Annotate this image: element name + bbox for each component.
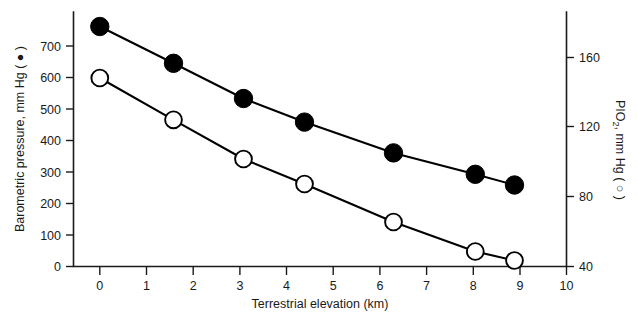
right-axis-tick-labels: 40 80 120 160 [579, 51, 600, 274]
x-tick-label-2: 2 [190, 279, 197, 293]
data-point-open [385, 214, 402, 231]
chart-container: 0 100 200 300 400 500 600 700 40 80 120 … [0, 0, 637, 315]
x-tick-label-10: 10 [560, 279, 574, 293]
data-point-open [235, 151, 252, 168]
x-tick-label-9: 9 [517, 279, 524, 293]
x-tick-label-0: 0 [96, 279, 103, 293]
data-point-open [91, 70, 108, 87]
data-point-open [467, 243, 484, 260]
data-point-filled [234, 89, 252, 107]
x-tick-label-1: 1 [143, 279, 150, 293]
right-axis-ticks [567, 58, 575, 267]
left-tick-label-700: 700 [40, 40, 61, 54]
x-tick-label-7: 7 [423, 279, 430, 293]
left-tick-label-100: 100 [40, 229, 61, 243]
x-tick-label-5: 5 [330, 279, 337, 293]
chart-svg: 0 100 200 300 400 500 600 700 40 80 120 … [0, 0, 637, 315]
left-tick-label-200: 200 [40, 197, 61, 211]
right-axis-title-prefix: PIO [613, 100, 627, 122]
data-point-filled [505, 176, 523, 194]
data-point-filled [91, 17, 109, 35]
left-tick-label-500: 500 [40, 103, 61, 117]
right-tick-label-120: 120 [579, 120, 600, 134]
left-tick-label-400: 400 [40, 134, 61, 148]
data-point-filled [466, 165, 484, 183]
left-tick-label-300: 300 [40, 166, 61, 180]
right-axis-title-suffix: , mm Hg ( ○ ) [613, 127, 627, 201]
right-tick-label-160: 160 [579, 51, 600, 65]
left-axis-title: Barometric pressure, mm Hg ( ● ) [13, 46, 27, 232]
x-tick-label-3: 3 [236, 279, 243, 293]
x-tick-label-8: 8 [470, 279, 477, 293]
x-axis-title: Terrestrial elevation (km) [252, 297, 389, 311]
series-line-barometric-pressure [100, 27, 515, 186]
x-tick-label-6: 6 [376, 279, 383, 293]
left-tick-label-0: 0 [54, 260, 61, 274]
series-barometric-pressure [91, 17, 524, 194]
right-axis-title: PIO2, mm Hg ( ○ ) [611, 100, 627, 200]
x-tick-label-4: 4 [283, 279, 290, 293]
x-axis-tick-labels: 0 1 2 3 4 5 6 7 8 9 10 [96, 279, 573, 293]
right-tick-label-80: 80 [579, 190, 593, 204]
data-point-filled [384, 144, 402, 162]
x-axis-ticks [100, 267, 567, 276]
data-point-filled [164, 54, 182, 72]
left-tick-label-600: 600 [40, 71, 61, 85]
data-point-open [506, 252, 523, 269]
left-axis-ticks [66, 46, 74, 267]
right-tick-label-40: 40 [579, 260, 593, 274]
data-point-open [165, 111, 182, 128]
data-point-open [296, 176, 313, 193]
data-point-filled [295, 113, 313, 131]
left-axis-tick-labels: 0 100 200 300 400 500 600 700 [40, 40, 61, 275]
